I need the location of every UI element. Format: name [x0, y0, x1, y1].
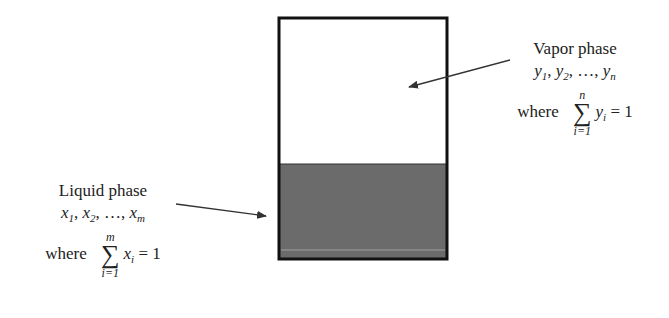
liquid-title: Liquid phase — [28, 180, 178, 202]
liquid-sum-constraint: where m ∑ i=1 xi = 1 — [28, 231, 178, 279]
vapor-region — [280, 18, 446, 164]
vapor-mole-fractions: y1, y2, …, yn — [500, 60, 650, 87]
liquid-phase-label: Liquid phase x1, x2, …, xm where m ∑ i=1… — [28, 180, 178, 279]
sigma-symbol: m ∑ i=1 — [101, 231, 120, 279]
vapor-title: Vapor phase — [500, 38, 650, 60]
liquid-mole-fractions: x1, x2, …, xm — [28, 202, 178, 229]
vapor-sum-constraint: where n ∑ i=1 yi = 1 — [500, 89, 650, 137]
liquid-region — [280, 164, 446, 259]
liquid-arrow — [176, 204, 266, 216]
vapor-phase-label: Vapor phase y1, y2, …, yn where n ∑ i=1 … — [500, 38, 650, 137]
sigma-symbol: n ∑ i=1 — [573, 89, 592, 137]
